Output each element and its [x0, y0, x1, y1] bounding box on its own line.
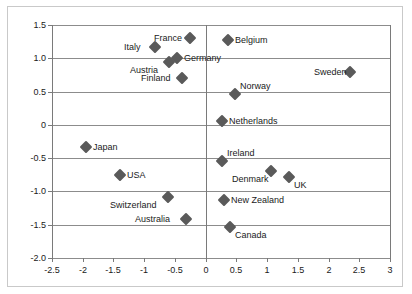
x-tick-mark: [206, 258, 207, 262]
y-tick-mark: [48, 158, 52, 159]
data-point-label: Finland: [141, 73, 171, 83]
y-tick-label: -0.5: [6, 153, 46, 163]
y-tick-label: -2.0: [6, 253, 46, 263]
x-tick-mark: [298, 258, 299, 262]
x-tick-mark: [113, 258, 114, 262]
y-tick-label: 0: [6, 120, 46, 130]
data-point-marker: [184, 32, 197, 45]
data-point-label: UK: [294, 180, 307, 190]
x-tick-mark: [267, 258, 268, 262]
data-point-label: Ireland: [227, 148, 255, 158]
data-point-label: Belgium: [235, 35, 268, 45]
gridline-horizontal: [52, 25, 390, 26]
x-tick-label: 3: [370, 265, 410, 275]
data-point-marker: [180, 212, 193, 225]
data-point-label: Australia: [135, 214, 170, 224]
x-tick-mark: [175, 258, 176, 262]
data-point-label: Germany: [184, 53, 221, 63]
data-point-label: France: [154, 33, 182, 43]
data-point-marker: [80, 141, 93, 154]
data-point-marker: [162, 191, 175, 204]
data-point-label: Switzerland: [110, 200, 157, 210]
x-tick-mark: [52, 258, 53, 262]
x-tick-mark: [359, 258, 360, 262]
x-tick-mark: [390, 258, 391, 262]
data-point-marker: [176, 71, 189, 84]
x-tick-mark: [144, 258, 145, 262]
scatter-plot: 1.51.00.50-0.5-1.0-1.5-2.0-2.5-2-1.5-1-0…: [0, 0, 412, 294]
data-point-label: New Zealand: [231, 195, 284, 205]
x-tick-mark: [83, 258, 84, 262]
x-tick-mark: [236, 258, 237, 262]
y-tick-label: 1.0: [6, 53, 46, 63]
data-point-label: Sweden: [314, 67, 347, 77]
y-tick-mark: [48, 92, 52, 93]
plot-right-border: [390, 25, 391, 258]
data-point-label: Italy: [124, 42, 141, 52]
y-tick-label: -1.5: [6, 220, 46, 230]
y-tick-mark: [48, 25, 52, 26]
data-point-marker: [228, 88, 241, 101]
gridline-horizontal: [52, 225, 390, 226]
x-tick-mark: [329, 258, 330, 262]
data-point-label: USA: [127, 170, 146, 180]
y-tick-mark: [48, 225, 52, 226]
data-point-label: Netherlands: [229, 116, 278, 126]
data-point-marker: [114, 169, 127, 182]
gridline-horizontal: [52, 258, 390, 259]
gridline-horizontal: [52, 191, 390, 192]
data-point-marker: [222, 33, 235, 46]
y-tick-label: 0.5: [6, 87, 46, 97]
y-axis: [52, 25, 53, 258]
data-point-label: Norway: [240, 81, 271, 91]
y-tick-mark: [48, 125, 52, 126]
y-tick-mark: [48, 58, 52, 59]
y-tick-label: 1.5: [6, 20, 46, 30]
y-tick-label: -1.0: [6, 186, 46, 196]
y-tick-mark: [48, 191, 52, 192]
data-point-label: Canada: [235, 230, 267, 240]
gridline-horizontal: [52, 92, 390, 93]
data-point-label: Denmark: [232, 174, 269, 184]
data-point-marker: [218, 194, 231, 207]
data-point-label: Japan: [93, 142, 118, 152]
